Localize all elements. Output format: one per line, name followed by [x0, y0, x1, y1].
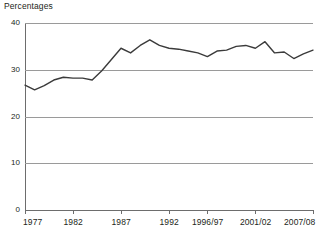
x-tick-label-1977: 1977: [23, 217, 42, 227]
x-tick-label-1996-97: 1996/97: [192, 217, 223, 227]
x-tick-mark-6: [313, 210, 314, 214]
x-tick-label-2001-02: 2001/02: [240, 217, 271, 227]
plot-area: [25, 23, 313, 210]
x-tick-mark-4: [207, 210, 208, 214]
x-tick-mark-0: [25, 210, 26, 214]
y-tick-label-0: 0: [2, 206, 20, 214]
x-tick-label-1987: 1987: [112, 217, 131, 227]
chart-title: Percentages: [4, 1, 53, 12]
x-tick-label-1982: 1982: [64, 217, 83, 227]
x-tick-mark-2: [121, 210, 122, 214]
x-tick-mark-3: [169, 210, 170, 214]
y-tick-label-20: 20: [2, 113, 20, 121]
series-path-percentages: [25, 40, 313, 90]
y-tick-label-30: 30: [2, 66, 20, 74]
y-tick-label-40: 40: [2, 19, 20, 27]
chart-container: Percentages 010203040 197719821987199219…: [0, 0, 331, 243]
series-line-chart: [25, 23, 313, 210]
x-tick-mark-5: [255, 210, 256, 214]
y-tick-label-10: 10: [2, 159, 20, 167]
x-tick-label-1992: 1992: [160, 217, 179, 227]
x-tick-mark-1: [73, 210, 74, 214]
x-tick-label-2007-08: 2007/08: [284, 217, 315, 227]
